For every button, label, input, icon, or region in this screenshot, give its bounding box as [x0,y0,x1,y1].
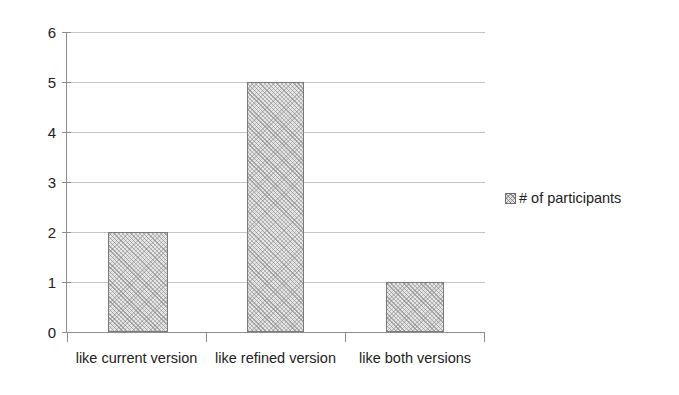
x-tick-1 [206,333,207,342]
y-axis-label-4: 4 [34,125,56,140]
x-tick-0 [67,333,68,342]
legend: # of participants [505,191,621,206]
bar-chart: 6 5 4 3 2 1 0 like current version like … [0,0,679,395]
legend-swatch-icon [505,193,516,204]
y-axis-label-5: 5 [34,75,56,90]
y-axis-label-0: 0 [34,325,56,340]
x-axis-label-like-both-versions: like both versions [344,349,486,368]
x-tick-3 [484,333,485,342]
x-axis-label-like-current-version: like current version [67,349,206,368]
y-axis-label-6: 6 [34,25,56,40]
x-axis-label-like-refined-version: like refined version [203,349,348,368]
y-axis-label-3: 3 [34,175,56,190]
x-axis [67,332,485,333]
legend-label-participants: # of participants [519,191,621,206]
x-tick-2 [345,333,346,342]
y-axis-label-2: 2 [34,225,56,240]
y-axis-label-1: 1 [34,275,56,290]
